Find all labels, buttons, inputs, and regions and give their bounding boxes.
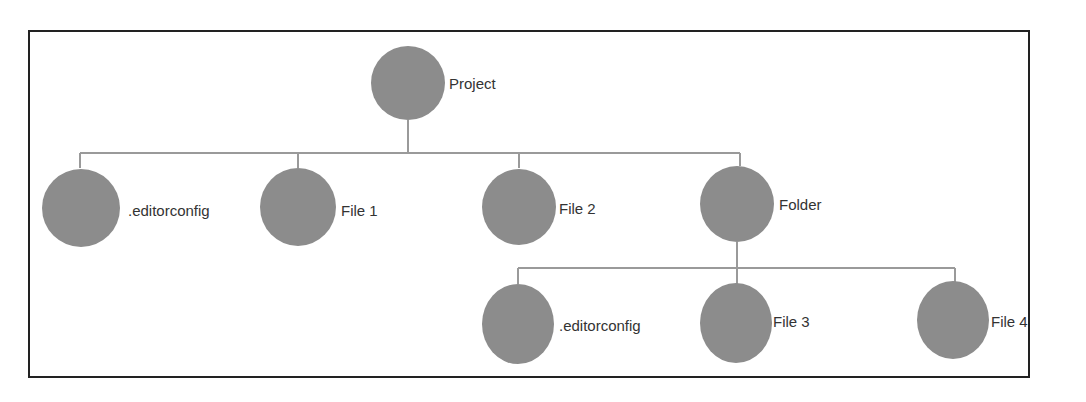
node-folder — [700, 166, 774, 242]
label-file-1: File 1 — [341, 202, 378, 219]
label-file-3: File 3 — [773, 313, 810, 330]
node-editorconfig-folder — [482, 284, 554, 364]
node-file-2 — [482, 169, 556, 245]
label-editorconfig-folder: .editorconfig — [559, 317, 641, 334]
label-editorconfig-root: .editorconfig — [128, 202, 210, 219]
label-file-2: File 2 — [559, 200, 596, 217]
label-file-4: File 4 — [991, 313, 1028, 330]
node-file-1 — [260, 168, 336, 246]
node-file-3 — [700, 283, 772, 363]
node-editorconfig-root — [42, 169, 120, 247]
label-project: Project — [449, 75, 496, 92]
node-project — [371, 46, 445, 120]
label-folder: Folder — [779, 196, 822, 213]
node-file-4 — [917, 281, 989, 359]
